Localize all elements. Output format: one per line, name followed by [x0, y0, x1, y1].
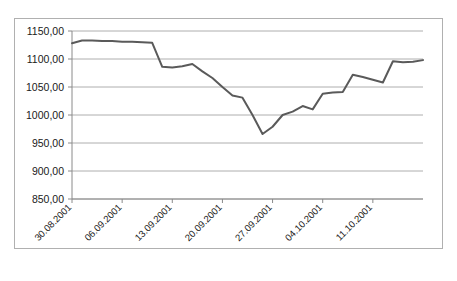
- y-axis-labels: 850,00900,00950,001000,001050,001100,001…: [26, 25, 64, 205]
- axis-tickmarks: [68, 31, 373, 203]
- x-axis-tick-label: 30.08.2001: [32, 202, 73, 243]
- y-axis-tick-label: 900,00: [32, 165, 64, 177]
- x-axis-tick-label: 04.10.2001: [283, 202, 324, 243]
- gridlines: [72, 31, 423, 199]
- x-axis-tick-label: 11.10.2001: [333, 202, 374, 243]
- x-axis-tick-label: 20.09.2001: [182, 202, 223, 243]
- y-axis-tick-label: 850,00: [32, 193, 64, 205]
- x-axis-labels: 30.08.200106.09.200113.09.200120.09.2001…: [32, 202, 374, 243]
- x-axis-tick-label: 06.09.2001: [82, 202, 123, 243]
- y-axis-tick-label: 950,00: [32, 137, 64, 149]
- y-axis-tick-label: 1050,00: [26, 81, 64, 93]
- y-axis-tick-label: 1150,00: [27, 25, 64, 37]
- x-axis-tick-label: 27.09.2001: [233, 202, 274, 243]
- line-chart: 850,00900,00950,001000,001050,001100,001…: [0, 0, 457, 281]
- y-axis-tick-label: 1000,00: [26, 109, 64, 121]
- x-axis-tick-label: 13.09.2001: [132, 202, 173, 243]
- y-axis-tick-label: 1100,00: [27, 53, 64, 65]
